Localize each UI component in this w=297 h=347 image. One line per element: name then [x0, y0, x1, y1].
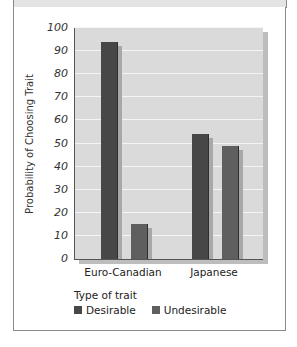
y-tick-label: 60 [38, 114, 68, 126]
y-tick-label: 10 [38, 230, 68, 242]
legend-swatch-desirable [74, 306, 82, 314]
legend: Desirable Undesirable [74, 304, 242, 316]
y-tick-label: 50 [38, 138, 68, 150]
y-axis-label: Probability of Choosing Trait [24, 74, 35, 214]
y-tick-label: 80 [38, 68, 68, 80]
x-label-euro-canadian: Euro-Canadian [84, 266, 161, 278]
bar-japanese-undesirable [222, 146, 239, 259]
legend-title: Type of trait [74, 289, 137, 301]
plot-area [74, 28, 263, 260]
y-tick-label: 90 [38, 45, 68, 57]
y-tick-label: 100 [38, 22, 68, 34]
y-tick-label: 0 [38, 253, 68, 265]
y-tick-label: 40 [38, 161, 68, 173]
legend-item-undesirable: Undesirable [152, 304, 227, 316]
bar-euro-canadian-desirable [101, 42, 118, 259]
y-tick-label: 20 [38, 207, 68, 219]
bar-japanese-desirable [192, 134, 209, 259]
y-tick-label: 30 [38, 184, 68, 196]
legend-label-desirable: Desirable [86, 304, 136, 316]
gridline [75, 27, 263, 28]
x-label-japanese: Japanese [190, 266, 238, 278]
legend-item-desirable: Desirable [74, 304, 136, 316]
y-tick-label: 70 [38, 91, 68, 103]
bar-euro-canadian-undesirable [131, 224, 148, 259]
legend-label-undesirable: Undesirable [164, 304, 227, 316]
legend-swatch-undesirable [152, 306, 160, 314]
